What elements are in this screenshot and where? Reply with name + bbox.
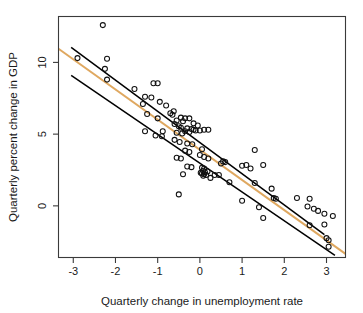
data-point — [307, 196, 312, 201]
y-tick-label: 10 — [36, 56, 48, 68]
data-point — [102, 66, 107, 71]
data-point — [269, 186, 274, 191]
plot-canvas: -3-2-10123 0510 Quarterly change in unem… — [0, 0, 363, 313]
data-point — [164, 103, 169, 108]
data-point — [322, 211, 327, 216]
data-point — [252, 147, 257, 152]
data-point — [143, 129, 148, 134]
data-point — [176, 192, 181, 197]
data-point — [322, 222, 327, 227]
data-point — [256, 205, 261, 210]
data-points-group — [75, 23, 335, 250]
data-point — [305, 204, 310, 209]
data-point — [316, 208, 321, 213]
x-tick-label: 3 — [323, 265, 329, 277]
confidence-band-line — [71, 47, 324, 234]
data-point — [149, 95, 154, 100]
y-tick-label: 0 — [36, 203, 48, 209]
data-point — [105, 56, 110, 61]
plot-border — [59, 17, 346, 258]
data-point — [326, 244, 331, 249]
data-point — [160, 129, 165, 134]
data-point — [261, 162, 266, 167]
x-tick-label: 1 — [239, 265, 245, 277]
data-point — [240, 198, 245, 203]
x-tick-label: 2 — [281, 265, 287, 277]
data-point — [75, 56, 80, 61]
data-point — [208, 175, 213, 180]
data-point — [294, 195, 299, 200]
data-point — [248, 166, 253, 171]
y-tick-label: 5 — [36, 131, 48, 137]
data-point — [105, 77, 110, 82]
x-axis-ticks: -3-2-10123 — [68, 258, 329, 278]
data-point — [177, 140, 182, 145]
plot-frame — [59, 17, 346, 258]
data-point — [140, 102, 145, 107]
data-point — [172, 137, 177, 142]
x-axis-label: Quarterly change in unemployment rate — [101, 295, 303, 307]
x-tick-label: 0 — [197, 265, 203, 277]
data-point — [181, 172, 186, 177]
y-axis-label: Quarterly percent change in GDP — [7, 52, 19, 222]
okun-law-scatter-figure: -3-2-10123 0510 Quarterly change in unem… — [0, 0, 363, 313]
x-tick-label: -1 — [153, 265, 163, 277]
data-point — [100, 23, 105, 28]
x-tick-label: -2 — [111, 265, 121, 277]
data-point — [157, 99, 162, 104]
data-point — [191, 121, 196, 126]
data-point — [132, 86, 137, 91]
y-axis-ticks: 0510 — [36, 56, 59, 209]
data-point — [261, 216, 266, 221]
data-point — [330, 213, 335, 218]
x-tick-label: -3 — [68, 265, 78, 277]
data-point — [143, 94, 148, 99]
